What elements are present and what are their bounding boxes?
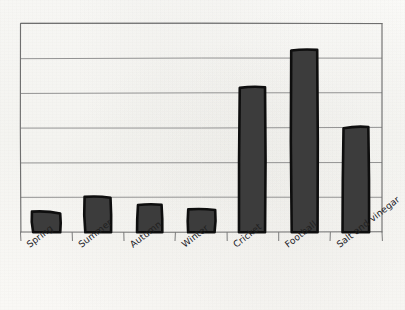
bar-chart: SpringSummerAutumnWinterCricketFootballS… [0, 0, 405, 310]
bar [239, 87, 266, 232]
bar [291, 49, 318, 232]
gridline [21, 93, 383, 94]
y-axis-line [20, 24, 21, 233]
gridline [21, 58, 383, 59]
gridline [21, 127, 383, 128]
bar [343, 127, 370, 233]
bar-group [32, 49, 369, 232]
gridline-group [21, 23, 383, 197]
